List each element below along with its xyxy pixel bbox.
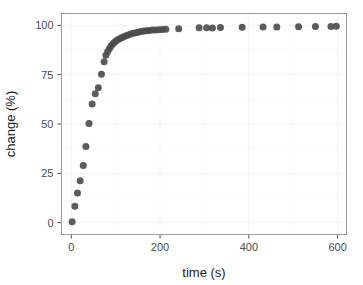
data-point — [162, 26, 169, 33]
x-tick-label: 200 — [151, 241, 169, 253]
x-tick-label: 400 — [240, 241, 258, 253]
y-tick-label: 75 — [41, 69, 53, 81]
data-point — [92, 90, 99, 97]
data-point — [312, 23, 319, 30]
x-tick-label: 600 — [328, 241, 346, 253]
y-tick-label: 0 — [47, 217, 53, 229]
data-point — [209, 24, 216, 31]
x-tick-label: 0 — [68, 241, 74, 253]
data-point — [95, 84, 102, 91]
data-point — [239, 24, 246, 31]
data-point — [80, 162, 87, 169]
y-axis-title: change (%) — [3, 91, 18, 157]
chart-figure: 0200400600 0255075100 time (s) change (%… — [0, 0, 363, 285]
data-point — [101, 58, 108, 65]
data-point — [74, 190, 81, 197]
data-point — [295, 23, 302, 30]
data-point — [175, 25, 182, 32]
data-point — [273, 23, 280, 30]
y-tick-label: 50 — [41, 118, 53, 130]
data-point — [260, 24, 267, 31]
scatter-plot-svg: 0200400600 0255075100 time (s) change (%… — [0, 0, 363, 285]
data-point — [333, 23, 340, 30]
data-point — [89, 101, 96, 108]
data-point — [77, 177, 84, 184]
data-point — [82, 143, 89, 150]
data-point — [217, 24, 224, 31]
data-point — [196, 24, 203, 31]
data-point — [98, 71, 105, 78]
data-point — [71, 203, 78, 210]
x-axis-title: time (s) — [182, 265, 225, 280]
y-tick-label: 100 — [35, 19, 53, 31]
y-tick-label: 25 — [41, 167, 53, 179]
data-point — [69, 218, 76, 225]
data-point — [86, 120, 93, 127]
